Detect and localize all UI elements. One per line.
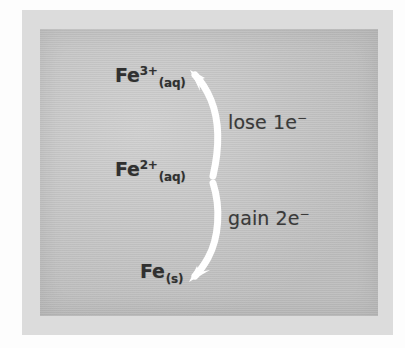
figure-root: Fe3+(aq) Fe2+(aq) Fe(s) lose 1e− gain 2e…	[0, 0, 405, 348]
panel-texture	[40, 29, 378, 316]
process-text: lose 1e	[228, 111, 297, 133]
species-symbol: Fe	[140, 260, 165, 282]
species-label-iron-iii: Fe3+(aq)	[115, 66, 186, 85]
species-charge: 2+	[140, 158, 158, 172]
species-charge: 3+	[140, 64, 158, 78]
process-text: gain 2e	[228, 207, 300, 229]
process-superscript: −	[297, 111, 307, 125]
species-state: (aq)	[159, 170, 186, 184]
species-symbol: Fe	[115, 158, 140, 180]
process-label-oxidation: lose 1e−	[228, 113, 307, 132]
process-superscript: −	[300, 207, 310, 221]
species-label-iron-ii: Fe2+(aq)	[115, 160, 186, 179]
species-label-iron-metal: Fe(s)	[140, 262, 183, 281]
panel-vignette	[40, 29, 378, 316]
process-label-reduction: gain 2e−	[228, 209, 310, 228]
species-state: (aq)	[159, 76, 186, 90]
species-symbol: Fe	[115, 64, 140, 86]
diagram-panel	[40, 29, 378, 316]
species-state: (s)	[166, 272, 184, 286]
